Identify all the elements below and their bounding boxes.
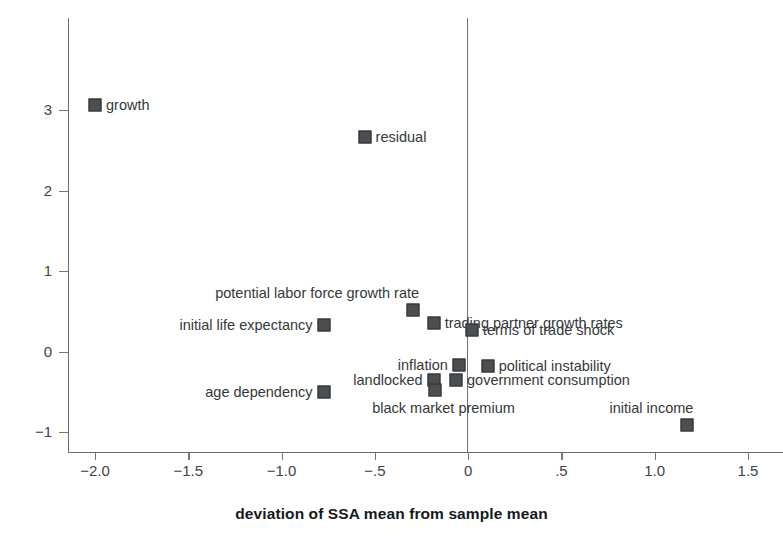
y-tick-mark	[59, 352, 68, 353]
data-point-label: residual	[376, 129, 427, 145]
data-point-label: growth	[106, 97, 150, 113]
x-tick-label: −.5	[364, 463, 385, 479]
data-point-label: landlocked	[353, 372, 422, 388]
data-point-marker[interactable]	[317, 318, 330, 331]
x-axis-line	[68, 452, 783, 453]
x-tick-label: −1.5	[173, 463, 203, 479]
data-point-marker[interactable]	[427, 316, 440, 329]
x-tick-mark	[655, 452, 656, 460]
data-point-marker[interactable]	[465, 324, 478, 337]
data-point-label: political instability	[499, 358, 611, 374]
data-point-label: potential labor force growth rate	[215, 285, 419, 301]
data-point-marker[interactable]	[450, 374, 463, 387]
x-tick-label: −2.0	[80, 463, 110, 479]
x-tick-label: .5	[555, 463, 568, 479]
data-point-marker[interactable]	[681, 418, 694, 431]
plot-area: −2.0−1.5−1.0−.50.51.01.5 3210−1 growthre…	[0, 0, 783, 549]
x-tick-mark	[468, 452, 469, 460]
y-tick-mark	[59, 191, 68, 192]
data-point-marker[interactable]	[89, 99, 102, 112]
data-point-marker[interactable]	[317, 385, 330, 398]
x-tick-label: −1.0	[267, 463, 297, 479]
x-tick-label: 1.5	[738, 463, 759, 479]
x-tick-mark	[748, 452, 749, 460]
y-tick-mark	[59, 271, 68, 272]
data-point-marker[interactable]	[452, 359, 465, 372]
y-tick-label: 1	[22, 263, 52, 279]
x-tick-label: 0	[464, 463, 472, 479]
y-tick-label: 3	[22, 102, 52, 118]
x-axis-title: deviation of SSA mean from sample mean	[0, 505, 783, 523]
y-tick-label: 2	[22, 183, 52, 199]
data-point-label: initial income	[610, 400, 694, 416]
scatter-chart-figure: −2.0−1.5−1.0−.50.51.01.5 3210−1 growthre…	[0, 0, 783, 549]
data-point-label: terms of trade shock	[483, 322, 614, 338]
data-point-label: black market premium	[372, 400, 515, 416]
x-tick-mark	[561, 452, 562, 460]
y-tick-mark	[59, 110, 68, 111]
x-tick-mark	[282, 452, 283, 460]
y-tick-label: −1	[22, 424, 52, 440]
y-tick-label: 0	[22, 344, 52, 360]
data-point-marker[interactable]	[407, 303, 420, 316]
data-point-label: age dependency	[205, 384, 312, 400]
x-tick-label: 1.0	[644, 463, 665, 479]
data-point-marker[interactable]	[481, 359, 494, 372]
data-point-label: government consumption	[467, 372, 630, 388]
x-tick-mark	[95, 452, 96, 460]
data-point-marker[interactable]	[358, 131, 371, 144]
data-point-label: inflation	[398, 357, 448, 373]
y-axis-line	[68, 18, 69, 452]
data-point-label: initial life expectancy	[180, 317, 313, 333]
y-tick-mark	[59, 432, 68, 433]
x-tick-mark	[375, 452, 376, 460]
data-point-marker[interactable]	[429, 384, 442, 397]
x-tick-mark	[188, 452, 189, 460]
